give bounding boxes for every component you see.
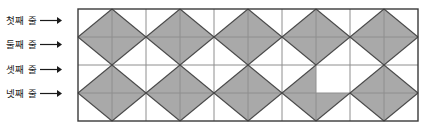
figure-container: 첫째 줄 둘째 줄 셋째 줄 넷째 줄	[0, 0, 428, 130]
triangle-grid	[0, 0, 428, 130]
